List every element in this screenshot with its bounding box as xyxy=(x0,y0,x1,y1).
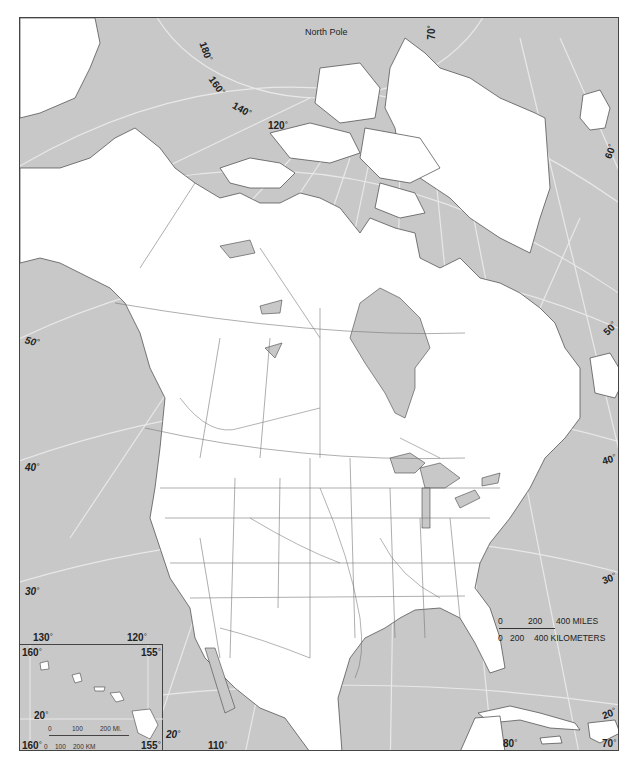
lon-70-label-top: 70 xyxy=(426,25,437,39)
lon-130-label: 130 xyxy=(33,632,53,643)
inset-scale-line xyxy=(49,735,129,736)
inset-155-bottom: 155 xyxy=(141,740,161,751)
hawaii-inset: 160 155 20 160 155 0 100 200 MI. 0 100 2… xyxy=(20,644,163,751)
inset-scale-km-100: 100 xyxy=(55,743,66,750)
lat-40-label-left: 40 xyxy=(25,462,39,473)
inset-20-lat: 20 xyxy=(34,710,48,721)
scale-km-0: 0 xyxy=(498,633,503,643)
inset-160-top: 160 xyxy=(22,647,42,658)
scale-bar-line xyxy=(499,628,555,629)
map-frame: North Pole 180 160 140 120 70 60 50 40 3… xyxy=(19,17,619,751)
north-pole-label: North Pole xyxy=(305,27,348,37)
landmasses xyxy=(20,18,619,751)
lon-80-label: 80 xyxy=(503,738,517,749)
lat-20-label-bottom: 20 xyxy=(166,729,180,740)
inset-scale-mi-0: 0 xyxy=(48,725,52,732)
inset-160-bottom: 160 xyxy=(22,740,42,751)
scale-km-200: 200 xyxy=(510,633,524,643)
inset-scale-km-0: 0 xyxy=(44,743,48,750)
lon-120-label-bottom: 120 xyxy=(127,632,147,643)
inset-scale-mi-200: 200 MI. xyxy=(100,725,122,732)
lon-70-label-bottom: 70 xyxy=(602,738,616,749)
north-america-map xyxy=(20,18,619,751)
scale-miles-400: 400 MILES xyxy=(556,616,598,626)
scale-miles-0: 0 xyxy=(498,616,503,626)
inset-scale-km-200: 200 KM xyxy=(73,743,95,750)
lon-120-label: 120 xyxy=(268,120,288,131)
inset-155-top: 155 xyxy=(141,647,161,658)
scale-km-400: 400 KILOMETERS xyxy=(534,633,605,643)
lon-110-label: 110 xyxy=(208,740,227,751)
inset-scale-mi-100: 100 xyxy=(72,725,83,732)
scale-miles-200: 200 xyxy=(528,616,542,626)
lat-30-label-left: 30 xyxy=(25,586,39,597)
